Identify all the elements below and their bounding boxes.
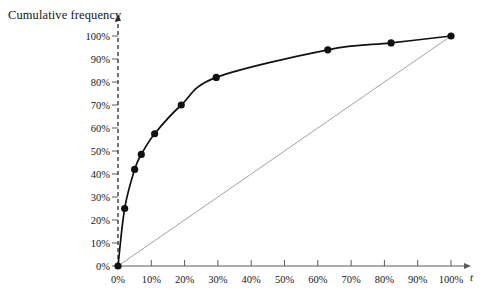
data-point-marker: [178, 101, 185, 108]
y-tick-label: 0%: [60, 261, 110, 272]
y-tick-label: 20%: [60, 215, 110, 226]
y-tick-label: 50%: [60, 146, 110, 157]
x-tick-label: 50%: [275, 274, 294, 285]
y-axis-arrowhead: [115, 14, 121, 21]
y-tick-label: 90%: [60, 54, 110, 65]
x-tick-label: 40%: [242, 274, 261, 285]
data-point-marker: [213, 74, 220, 81]
data-point-marker: [324, 46, 331, 53]
y-tick-label: 70%: [60, 100, 110, 111]
series-layer: [114, 32, 454, 269]
x-tick-label: 10%: [142, 274, 161, 285]
x-tick-label: 80%: [375, 274, 394, 285]
x-axis-arrowhead: [464, 263, 471, 269]
x-tick-label: 60%: [308, 274, 327, 285]
y-tick-label: 40%: [60, 169, 110, 180]
x-tick-label: 20%: [175, 274, 194, 285]
y-tick-label: 60%: [60, 123, 110, 134]
x-tick-label: 30%: [208, 274, 227, 285]
cumulative-frequency-chart: Cumulative frequency t 0%10%20%30%40%50%…: [0, 0, 487, 299]
data-point-marker: [121, 205, 128, 212]
x-tick-label: 90%: [408, 274, 427, 285]
data-point-marker: [151, 130, 158, 137]
data-point-marker: [114, 262, 121, 269]
equality-line-path: [118, 36, 451, 266]
data-point-marker: [131, 166, 138, 173]
y-tick-label: 80%: [60, 77, 110, 88]
y-tick-label: 100%: [60, 31, 110, 42]
y-tick-label: 10%: [60, 238, 110, 249]
x-tick-label: 100%: [439, 274, 464, 285]
y-tick-label: 30%: [60, 192, 110, 203]
data-point-marker: [447, 32, 454, 39]
data-point-marker: [387, 39, 394, 46]
ticks-layer: [112, 36, 451, 266]
x-tick-label: 70%: [341, 274, 360, 285]
data-point-marker: [138, 151, 145, 158]
x-tick-label: 0%: [111, 274, 125, 285]
